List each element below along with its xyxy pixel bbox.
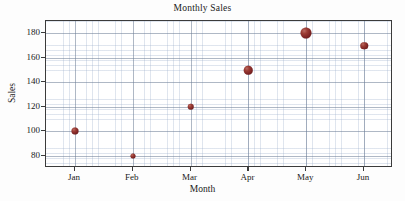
x-tick-mark (305, 167, 306, 171)
x-tick-mark (132, 167, 133, 171)
gridline-horizontal (46, 156, 391, 157)
y-tick-label: 140 (27, 76, 41, 86)
gridline-horizontal (46, 131, 391, 132)
gridline-horizontal (46, 82, 391, 83)
y-tick-mark (41, 57, 45, 58)
y-tick-mark (41, 155, 45, 156)
chart-title: Monthly Sales (0, 3, 405, 13)
y-axis-label: Sales (7, 83, 17, 103)
data-point-marker (301, 28, 312, 39)
y-tick-mark (41, 32, 45, 33)
x-tick-label: Apr (240, 172, 254, 182)
data-point-marker (130, 153, 135, 158)
x-tick-mark (247, 167, 248, 171)
minor-gridlines (46, 21, 391, 166)
gridline-vertical (191, 21, 192, 166)
gridline-horizontal (46, 58, 391, 59)
x-tick-mark (74, 167, 75, 171)
gridline-vertical (306, 21, 307, 166)
y-tick-label: 180 (27, 27, 41, 37)
data-point-marker (71, 128, 78, 135)
x-tick-label: Feb (125, 172, 139, 182)
y-tick-label: 160 (27, 52, 41, 62)
x-tick-label: Jan (68, 172, 80, 182)
x-axis-label: Month (0, 184, 405, 194)
x-tick-label: Jun (357, 172, 370, 182)
y-tick-mark (41, 130, 45, 131)
data-point-marker (187, 104, 194, 111)
plot-area (45, 20, 392, 167)
x-tick-mark (363, 167, 364, 171)
gridline-horizontal (46, 33, 391, 34)
gridline-vertical (248, 21, 249, 166)
x-tick-label: May (297, 172, 314, 182)
gridline-horizontal (46, 107, 391, 108)
gridline-vertical (75, 21, 76, 166)
y-tick-label: 80 (31, 150, 40, 160)
y-tick-label: 120 (27, 101, 41, 111)
chart-figure: Monthly Sales Sales Month 80100120140160… (0, 0, 405, 201)
gridline-vertical (133, 21, 134, 166)
y-tick-mark (41, 81, 45, 82)
x-tick-mark (190, 167, 191, 171)
y-tick-mark (41, 106, 45, 107)
data-point-marker (244, 66, 253, 75)
y-tick-label: 100 (27, 125, 41, 135)
data-point-marker (360, 42, 368, 50)
x-tick-label: Mar (182, 172, 197, 182)
